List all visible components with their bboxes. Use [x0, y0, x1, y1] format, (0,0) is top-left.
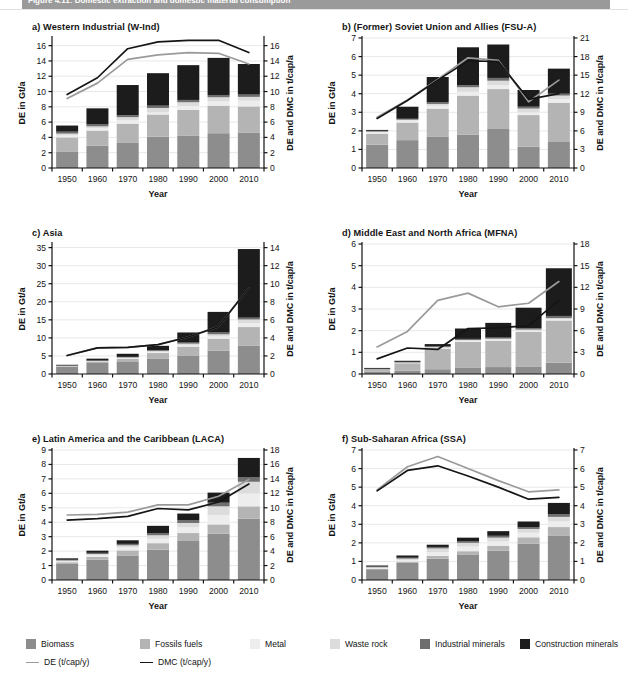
legend-item-de-line[interactable]: DE (t/cap/y): [26, 654, 89, 670]
bar-segment-waste_rock[interactable]: [208, 97, 230, 101]
bar-segment-industrial_minerals[interactable]: [364, 369, 390, 370]
bar-segment-industrial_minerals[interactable]: [548, 514, 570, 517]
bar-stack[interactable]: [86, 551, 108, 580]
bar-segment-biomass[interactable]: [487, 551, 509, 580]
bar-segment-metal[interactable]: [56, 136, 78, 138]
bar-segment-waste_rock[interactable]: [177, 523, 199, 527]
bar-segment-biomass[interactable]: [487, 129, 509, 168]
bar-segment-construction_minerals[interactable]: [56, 126, 78, 132]
bar-segment-fossils_fuels[interactable]: [86, 131, 108, 146]
bar-segment-biomass[interactable]: [86, 560, 108, 580]
bar-segment-waste_rock[interactable]: [425, 347, 451, 348]
bar-segment-construction_minerals[interactable]: [548, 503, 570, 514]
bar-segment-waste_rock[interactable]: [518, 109, 540, 113]
bar-segment-fossils_fuels[interactable]: [366, 134, 388, 145]
bar-segment-metal[interactable]: [86, 128, 108, 130]
bar-segment-metal[interactable]: [485, 340, 511, 341]
bar-segment-fossils_fuels[interactable]: [86, 557, 108, 560]
bar-segment-industrial_minerals[interactable]: [56, 560, 78, 561]
bar-stack[interactable]: [147, 346, 169, 374]
bar-segment-construction_minerals[interactable]: [366, 130, 388, 131]
bar-segment-fossils_fuels[interactable]: [455, 342, 481, 368]
bar-stack[interactable]: [56, 126, 78, 168]
bar-segment-waste_rock[interactable]: [238, 97, 260, 101]
bar-segment-fossils_fuels[interactable]: [548, 527, 570, 535]
bar-segment-industrial_minerals[interactable]: [86, 360, 108, 361]
bar-segment-waste_rock[interactable]: [56, 134, 78, 136]
bar-segment-fossils_fuels[interactable]: [366, 569, 388, 570]
bar-segment-industrial_minerals[interactable]: [177, 520, 199, 523]
bar-segment-metal[interactable]: [208, 336, 230, 338]
bar-segment-industrial_minerals[interactable]: [147, 106, 169, 108]
bar-segment-industrial_minerals[interactable]: [455, 339, 481, 340]
bar-segment-waste_rock[interactable]: [427, 104, 449, 106]
bar-segment-metal[interactable]: [238, 101, 260, 107]
legend-item-biomass[interactable]: Biomass: [26, 636, 74, 652]
bar-segment-metal[interactable]: [518, 112, 540, 115]
bar-segment-biomass[interactable]: [86, 146, 108, 168]
bar-segment-industrial_minerals[interactable]: [56, 132, 78, 134]
bar-segment-construction_minerals[interactable]: [394, 361, 420, 362]
bar-stack[interactable]: [56, 558, 78, 580]
bar-segment-waste_rock[interactable]: [427, 548, 449, 552]
bar-segment-biomass[interactable]: [177, 356, 199, 374]
legend-item-waste-rock[interactable]: Waste rock: [330, 636, 388, 652]
bar-segment-fossils_fuels[interactable]: [427, 556, 449, 559]
bar-segment-metal[interactable]: [177, 106, 199, 110]
bar-segment-industrial_minerals[interactable]: [487, 536, 509, 538]
bar-segment-industrial_minerals[interactable]: [117, 544, 139, 545]
bar-segment-construction_minerals[interactable]: [238, 64, 260, 95]
bar-segment-metal[interactable]: [117, 358, 139, 359]
bar-stack[interactable]: [396, 107, 418, 168]
bar-stack[interactable]: [238, 458, 260, 580]
bar-segment-industrial_minerals[interactable]: [394, 362, 420, 363]
bar-segment-construction_minerals[interactable]: [117, 540, 139, 544]
bar-stack[interactable]: [396, 555, 418, 580]
bar-segment-construction_minerals[interactable]: [208, 58, 230, 95]
bar-segment-metal[interactable]: [457, 92, 479, 96]
bar-stack[interactable]: [457, 538, 479, 580]
bar-segment-industrial_minerals[interactable]: [518, 107, 540, 109]
bar-segment-industrial_minerals[interactable]: [366, 567, 388, 568]
bar-segment-biomass[interactable]: [117, 555, 139, 580]
bar-segment-metal[interactable]: [548, 99, 570, 103]
bar-segment-metal[interactable]: [56, 561, 78, 562]
bar-segment-biomass[interactable]: [208, 133, 230, 168]
bar-stack[interactable]: [238, 249, 260, 374]
bar-segment-waste_rock[interactable]: [457, 87, 479, 92]
bar-segment-waste_rock[interactable]: [117, 117, 139, 120]
bar-segment-metal[interactable]: [117, 548, 139, 551]
bar-segment-construction_minerals[interactable]: [396, 107, 418, 119]
bar-stack[interactable]: [208, 493, 230, 580]
bar-segment-biomass[interactable]: [177, 541, 199, 580]
bar-segment-biomass[interactable]: [366, 569, 388, 580]
bar-stack[interactable]: [117, 85, 139, 168]
bar-segment-industrial_minerals[interactable]: [546, 316, 572, 318]
bar-segment-construction_minerals[interactable]: [366, 566, 388, 567]
bar-stack[interactable]: [546, 268, 572, 374]
bar-segment-fossils_fuels[interactable]: [238, 506, 260, 518]
bar-segment-biomass[interactable]: [208, 351, 230, 374]
bar-segment-waste_rock[interactable]: [366, 132, 388, 133]
legend-item-dmc-line[interactable]: DMC (t/cap/y): [140, 654, 211, 670]
bar-segment-industrial_minerals[interactable]: [208, 332, 230, 334]
bar-stack[interactable]: [147, 526, 169, 580]
bar-segment-industrial_minerals[interactable]: [86, 553, 108, 554]
bar-segment-construction_minerals[interactable]: [117, 354, 139, 357]
bar-segment-industrial_minerals[interactable]: [238, 318, 260, 320]
bar-segment-biomass[interactable]: [117, 142, 139, 168]
bar-segment-waste_rock[interactable]: [548, 96, 570, 100]
bar-segment-fossils_fuels[interactable]: [56, 137, 78, 152]
bar-segment-biomass[interactable]: [548, 535, 570, 580]
bar-segment-waste_rock[interactable]: [147, 535, 169, 539]
bar-segment-industrial_minerals[interactable]: [117, 115, 139, 117]
bar-segment-biomass[interactable]: [546, 363, 572, 374]
bar-segment-industrial_minerals[interactable]: [396, 119, 418, 120]
bar-segment-construction_minerals[interactable]: [425, 344, 451, 346]
bar-segment-waste_rock[interactable]: [485, 339, 511, 340]
bar-segment-construction_minerals[interactable]: [147, 73, 169, 106]
bar-segment-fossils_fuels[interactable]: [177, 533, 199, 541]
bar-segment-fossils_fuels[interactable]: [548, 103, 570, 142]
bar-segment-construction_minerals[interactable]: [518, 522, 540, 528]
bar-segment-biomass[interactable]: [548, 142, 570, 168]
